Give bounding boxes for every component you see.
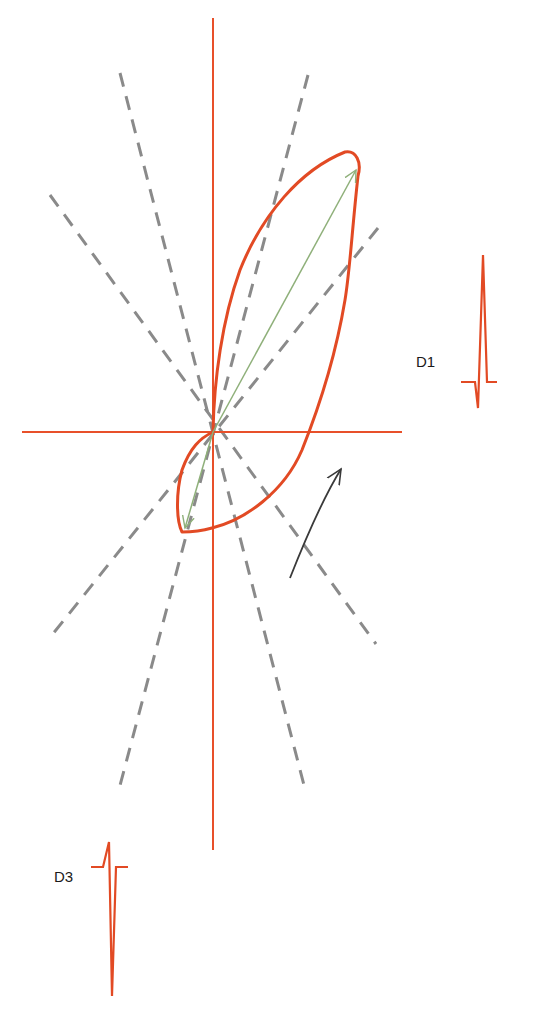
lead-d1-waveform <box>461 255 497 408</box>
rotation-arrow <box>290 469 341 578</box>
lead-d3-label: D3 <box>54 868 73 885</box>
vectorcardiogram-diagram <box>0 0 536 1032</box>
terminal-vector-arrow <box>185 432 213 528</box>
max-vector-arrow <box>213 170 356 432</box>
qrs-loop <box>178 152 360 532</box>
lead-d3-waveform <box>91 842 128 996</box>
lead-d1-label: D1 <box>416 353 435 370</box>
